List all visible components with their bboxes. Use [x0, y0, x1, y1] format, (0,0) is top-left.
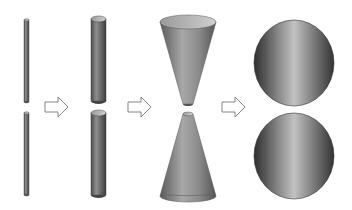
stage-thick-cylinders	[91, 16, 106, 198]
arrow-right-icon	[222, 97, 245, 117]
stage-spheres	[254, 20, 334, 199]
cone-bottom	[160, 112, 216, 202]
sphere-top	[254, 20, 334, 106]
thin-rod-top	[24, 19, 29, 103]
thick-cylinder-top	[91, 16, 106, 104]
thick-cylinder-bottom	[91, 110, 106, 198]
thin-rod-bottom	[24, 112, 29, 196]
arrow-right-icon	[128, 97, 151, 117]
sphere-bottom	[254, 113, 334, 199]
cone-top	[160, 15, 216, 106]
stage-thin-rods	[24, 19, 29, 196]
arrow-right-icon	[45, 97, 68, 117]
stage-cones	[160, 15, 216, 202]
transformation-diagram	[0, 0, 352, 210]
